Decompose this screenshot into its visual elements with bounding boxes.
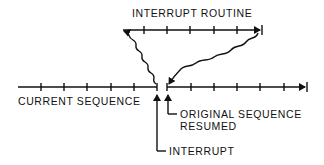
interrupt-label: INTERRUPT (169, 145, 234, 157)
return-to-sequence-arrow (169, 33, 258, 84)
original-sequence-label: ORIGINAL SEQUENCE RESUMED (180, 108, 302, 132)
current-sequence-label: CURRENT SEQUENCE (18, 95, 141, 107)
jump-to-routine-arrow (124, 31, 156, 84)
interrupt-routine-label: INTERRUPT ROUTINE (132, 7, 252, 19)
interrupt-diagram (0, 0, 324, 165)
original-sequence-line1: ORIGINAL SEQUENCE (180, 108, 302, 120)
original-sequence-line2: RESUMED (180, 120, 302, 132)
